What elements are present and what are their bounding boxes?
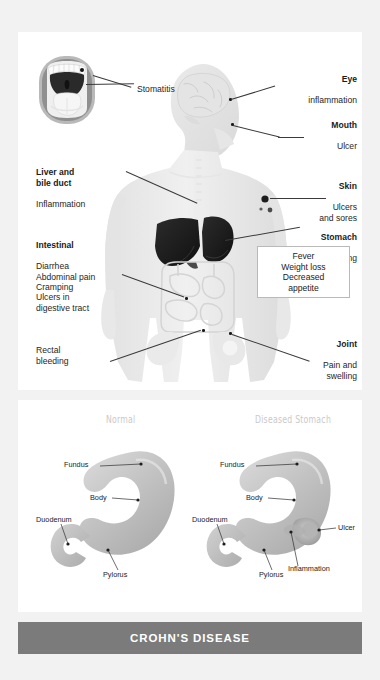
diseased-label-body: Body (246, 494, 263, 503)
open-mouth-photo (35, 54, 107, 126)
poster-title: CROHN'S DISEASE (130, 632, 250, 644)
diseased-label-fundus: Fundus (220, 461, 244, 470)
normal-label-body: Body (90, 494, 107, 503)
stomatitis-lesion-icon (80, 68, 84, 72)
label-eye: Eye inflammation (217, 64, 357, 116)
normal-label-duodenum: Duodenum (36, 516, 72, 525)
footer-banner: CROHN'S DISEASE (18, 622, 362, 654)
label-joint: Joint Pain and swelling (217, 329, 357, 391)
label-rectal-bleeding: Rectal bleeding (36, 335, 146, 377)
crohns-disease-poster: Stomatitis Eye inflammation Mouth Ulcer … (0, 0, 380, 680)
systemic-symptoms-box: Fever Weight loss Decreased appetite (257, 246, 350, 298)
normal-stomach-illustration (28, 438, 193, 578)
normal-label-fundus: Fundus (64, 461, 88, 470)
marker-intestinal (185, 297, 188, 300)
body-figure-card: Stomatitis Eye inflammation Mouth Ulcer … (18, 32, 362, 390)
diseased-stomach-heading: Diseased Stomach (255, 414, 331, 425)
normal-label-pylorus: Pylorus (103, 571, 127, 580)
label-liver: Liver and bile duct Inflammation (36, 157, 156, 219)
label-stomatitis: Stomatitis (137, 74, 175, 105)
label-mouth: Mouth Ulcer (217, 110, 357, 162)
label-intestinal: Intestinal Diarrhea Abdominal pain Cramp… (36, 230, 166, 324)
marker-rectal (202, 329, 205, 332)
diseased-stomach-illustration (184, 438, 356, 578)
stomach-comparison-card: Normal Diseased Stomach (18, 400, 362, 612)
diseased-label-duodenum: Duodenum (192, 516, 228, 525)
diseased-label-inflammation: Inflammation (288, 565, 330, 574)
diseased-label-pylorus: Pylorus (259, 571, 283, 580)
normal-stomach-heading: Normal (106, 414, 136, 425)
diseased-label-ulcer: Ulcer (338, 524, 355, 533)
